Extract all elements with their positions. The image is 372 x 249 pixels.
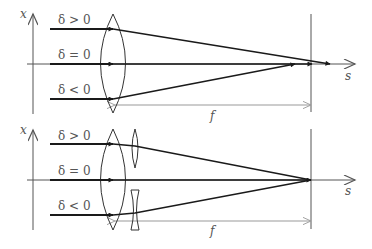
small-diverging-lens-icon xyxy=(131,190,139,230)
ray-label-positive: δ > 0 xyxy=(58,129,91,143)
panel-single-lens: x s f δ > 0 δ = 0 δ < 0 xyxy=(20,7,355,123)
ray-positive-out xyxy=(113,144,311,180)
ray-label-zero: δ = 0 xyxy=(58,48,91,62)
ray-label-positive: δ > 0 xyxy=(58,13,91,27)
optics-diagram: x s f δ > 0 δ = 0 δ < 0 x s xyxy=(0,0,372,249)
ray-negative-out xyxy=(113,180,311,215)
s-axis-label: s xyxy=(345,69,351,83)
small-converging-lens-icon xyxy=(132,129,138,168)
x-axis-label: x xyxy=(20,7,27,21)
focal-length-label: f xyxy=(209,109,217,123)
ray-positive-out xyxy=(113,29,330,64)
s-axis-label: s xyxy=(345,184,351,198)
ray-negative-out xyxy=(113,64,295,99)
ray-label-negative: δ < 0 xyxy=(58,83,91,97)
focal-length-label: f xyxy=(209,224,217,238)
x-axis-label: x xyxy=(20,123,27,137)
panel-corrected-lens: x s f δ > 0 δ = 0 δ < 0 xyxy=(20,123,355,238)
ray-label-zero: δ = 0 xyxy=(58,164,91,178)
ray-label-negative: δ < 0 xyxy=(58,199,91,213)
